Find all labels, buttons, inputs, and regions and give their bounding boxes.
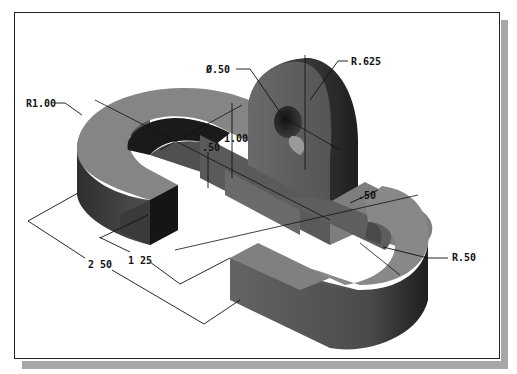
isometric-part-drawing: R1.00 Ø.50 R.625 1.00 .50 .50 R.50 1 25 … [0,0,517,374]
drawing-canvas: R1.00 Ø.50 R.625 1.00 .50 .50 R.50 1 25 … [0,0,517,374]
dim-hole-diameter: Ø.50 [205,64,230,75]
dim-inner-length: 1 25 [128,255,152,266]
dim-lug-height: 1.00 [224,133,248,144]
dim-left-radius: R1.00 [26,98,56,109]
dim-lug-radius: R.625 [351,56,381,67]
dim-overall-length: 2 50 [88,259,112,270]
dim-right-radius: R.50 [452,252,476,263]
dim-base-thickness: .50 [202,142,220,153]
dim-slot-width: .50 [358,190,376,201]
